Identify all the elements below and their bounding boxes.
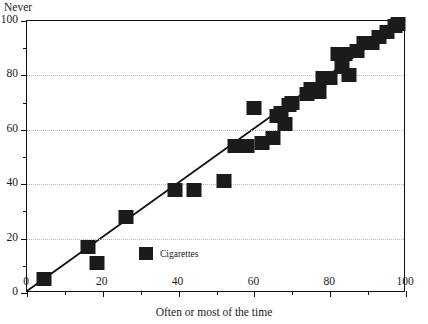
- data-point: [247, 101, 262, 115]
- y-tick-40: [21, 184, 27, 185]
- data-point: [186, 183, 201, 197]
- y-tick-80: [21, 75, 27, 76]
- x-tick-0: [27, 291, 28, 297]
- x-tick-100: [406, 291, 407, 297]
- x-minor-tick-90: [368, 291, 369, 295]
- y-tick-label-60: 60: [0, 123, 18, 134]
- scatter-plot-figure: · · · · · · · · · · · Never Cigarettes O…: [0, 0, 428, 324]
- x-tick-label-80: 80: [309, 276, 349, 287]
- y-minor-tick-30: [23, 211, 27, 212]
- x-tick-label-0: 0: [6, 276, 46, 287]
- y-tick-100: [21, 21, 27, 22]
- data-point: [342, 68, 357, 82]
- y-tick-20: [21, 239, 27, 240]
- x-minor-tick-30: [141, 291, 142, 295]
- data-point: [277, 117, 292, 131]
- plot-area: Cigarettes: [26, 20, 405, 292]
- y-tick-label-0: 0: [0, 286, 18, 297]
- y-minor-tick-50: [23, 157, 27, 158]
- data-point: [239, 139, 254, 153]
- x-tick-label-20: 20: [82, 276, 122, 287]
- legend-label-cigarettes: Cigarettes: [160, 249, 199, 259]
- data-point: [80, 240, 95, 254]
- x-tick-label-100: 100: [385, 276, 425, 287]
- data-point: [285, 96, 300, 110]
- x-tick-label-60: 60: [233, 276, 273, 287]
- y-minor-tick-70: [23, 103, 27, 104]
- gridline-y-40: [27, 184, 404, 185]
- y-tick-label-20: 20: [0, 232, 18, 243]
- x-axis-title: Often or most of the time: [0, 306, 428, 318]
- data-point: [391, 17, 406, 31]
- x-tick-60: [254, 291, 255, 297]
- y-tick-label-40: 40: [0, 177, 18, 188]
- y-tick-60: [21, 130, 27, 131]
- data-point: [311, 85, 326, 99]
- y-minor-tick-90: [23, 48, 27, 49]
- legend-swatch-cigarettes: [139, 247, 153, 260]
- y-axis-title: Never: [4, 1, 32, 13]
- data-point: [118, 210, 133, 224]
- x-tick-20: [103, 291, 104, 297]
- gridline-y-60: [27, 130, 404, 131]
- y-tick-label-80: 80: [0, 68, 18, 79]
- x-tick-80: [330, 291, 331, 297]
- x-minor-tick-10: [65, 291, 66, 295]
- x-tick-label-40: 40: [158, 276, 198, 287]
- x-minor-tick-50: [217, 291, 218, 295]
- cropped-title-remnant: · · · · · · · · · · ·: [0, 0, 428, 3]
- data-point: [167, 183, 182, 197]
- legend: Cigarettes: [139, 247, 199, 260]
- data-point: [217, 174, 232, 188]
- y-tick-label-100: 100: [0, 14, 18, 25]
- x-minor-tick-70: [292, 291, 293, 295]
- data-point: [90, 256, 105, 270]
- data-point: [266, 131, 281, 145]
- y-minor-tick-10: [23, 266, 27, 267]
- x-tick-40: [179, 291, 180, 297]
